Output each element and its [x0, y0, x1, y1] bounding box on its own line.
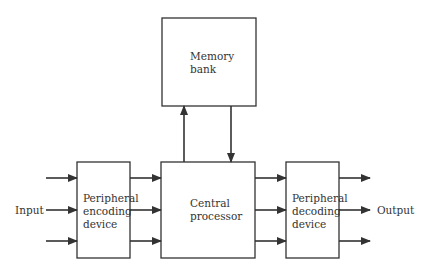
memory-bank-label: Memory bank [190, 50, 234, 76]
decoding-device-label: Peripheral decoding device [292, 192, 348, 231]
block-diagram-canvas [0, 0, 422, 275]
encoding-device-label: Peripheral encoding device [83, 192, 139, 231]
input-label: Input [15, 204, 44, 217]
output-label: Output [377, 204, 414, 217]
central-processor-label: Central processor [190, 197, 242, 223]
